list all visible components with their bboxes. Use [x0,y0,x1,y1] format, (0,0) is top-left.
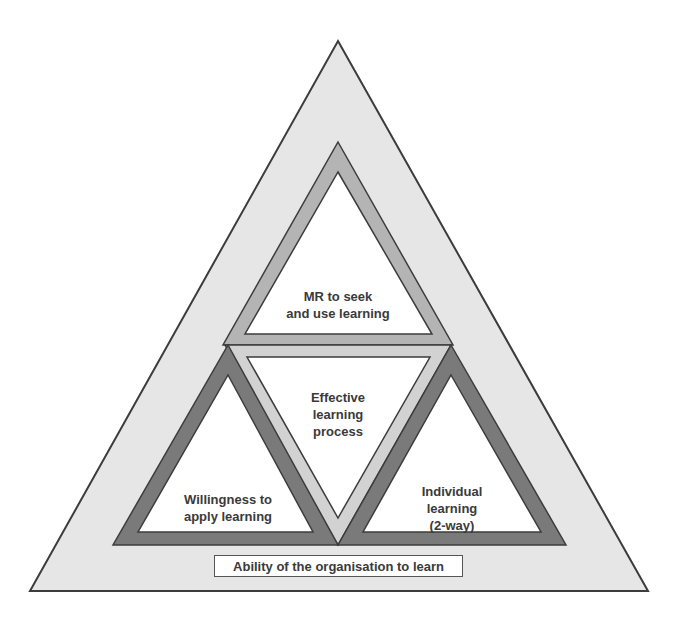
center-label-line1: Effective [288,389,388,406]
outer-label: Ability of the organisation to learn [233,559,444,574]
left-label: Willingness to apply learning [158,491,298,525]
right-label-line2: learning [402,500,502,517]
right-label-line1: Individual [402,483,502,500]
right-label-line3: (2-way) [402,517,502,534]
center-label-line2: learning [288,406,388,423]
top-label: MR to seek and use learning [268,288,408,322]
left-label-line2: apply learning [158,508,298,525]
top-label-line1: MR to seek [268,288,408,305]
center-label-line3: process [288,423,388,440]
outer-label-box: Ability of the organisation to learn [214,555,463,577]
left-label-line1: Willingness to [158,491,298,508]
center-label: Effective learning process [288,389,388,440]
top-label-line2: and use learning [268,305,408,322]
right-label: Individual learning (2-way) [402,483,502,534]
